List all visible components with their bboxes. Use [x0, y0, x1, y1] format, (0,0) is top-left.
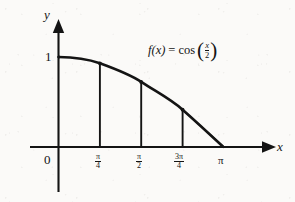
- function-argument-fraction: x 2: [205, 41, 209, 60]
- function-equals-sign: =: [168, 43, 175, 58]
- x-axis-label: x: [277, 140, 283, 153]
- x-axis: [30, 141, 276, 152]
- x-tick-3pi-4-numerator: 3π: [174, 153, 184, 161]
- x-tick-label-pi: π: [218, 155, 224, 166]
- function-open-paren: (: [197, 42, 204, 60]
- function-argument-denominator: 2: [205, 50, 209, 60]
- function-name: f(x): [148, 43, 165, 58]
- origin-label: 0: [44, 153, 51, 166]
- x-tick-3pi-4-denominator: 4: [174, 161, 184, 170]
- x-tick-pi-4-numerator: π: [95, 153, 101, 161]
- y-axis: [53, 19, 64, 192]
- figure-container: y x 1 0 π 4 π 2 3π 4 π f(x) = cos ( x 2 …: [0, 0, 295, 202]
- ordinate-lines: [100, 63, 183, 147]
- x-tick-label-pi-over-4: π 4: [95, 153, 101, 171]
- x-tick-label-pi-over-2: π 2: [136, 153, 142, 171]
- x-tick-pi-2-denominator: 2: [136, 161, 142, 170]
- y-axis-arrowhead: [53, 19, 64, 33]
- y-axis-label: y: [44, 8, 50, 21]
- plot-canvas: [0, 0, 295, 202]
- x-tick-pi-4-denominator: 4: [95, 161, 101, 170]
- function-annotation: f(x) = cos ( x 2 ): [148, 41, 217, 60]
- x-tick-pi-2-numerator: π: [136, 153, 142, 161]
- x-tick-label-3pi-over-4: 3π 4: [174, 153, 184, 171]
- y-tick-label-1: 1: [45, 50, 52, 63]
- function-argument-numerator: x: [205, 41, 209, 50]
- function-close-paren: ): [210, 42, 217, 60]
- function-operator: cos: [178, 43, 195, 58]
- x-axis-arrowhead: [262, 141, 276, 152]
